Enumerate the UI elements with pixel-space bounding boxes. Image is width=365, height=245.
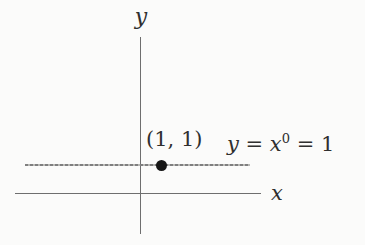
function-plot-figure: y x (1, 1) y = x0 = 1 <box>0 0 365 245</box>
point-marker-1-1 <box>156 160 167 171</box>
equation-rhs: = 1 <box>290 132 334 156</box>
y-axis-label: y <box>130 6 152 28</box>
equation-exponent: 0 <box>282 131 290 146</box>
x-axis-line <box>15 193 261 194</box>
x-axis-label: x <box>271 183 283 204</box>
equation-lhs: y <box>227 132 239 156</box>
constant-line-y-equals-1 <box>25 164 250 166</box>
equation-label: y = x0 = 1 <box>227 134 334 155</box>
point-coordinates-label: (1, 1) <box>146 129 202 150</box>
y-axis-line <box>140 37 141 234</box>
equation-equals-1: = <box>239 132 270 156</box>
equation-base: x <box>270 132 282 156</box>
